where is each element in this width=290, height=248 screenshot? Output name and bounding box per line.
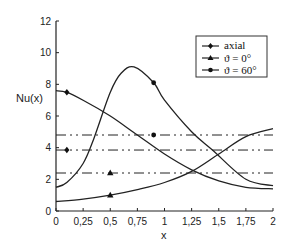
- x-tick-label: 0: [53, 216, 59, 227]
- nusselt-chart: 02468101200,250,50,7511,251,51,752 Nu(x)…: [0, 0, 290, 248]
- x-tick-label: 0,5: [103, 216, 117, 227]
- y-tick-label: 0: [45, 206, 51, 217]
- legend: axial ϑ = 0° ϑ = 60°: [196, 36, 267, 77]
- x-tick-label: 0,75: [128, 216, 148, 227]
- x-tick-label: 1: [162, 216, 168, 227]
- x-tick-label: 2: [270, 216, 276, 227]
- circle-marker-icon: [151, 133, 156, 138]
- y-axis-label: Nu(x): [16, 92, 43, 104]
- diamond-marker-icon: [64, 89, 69, 95]
- diamond-marker-icon: [64, 147, 69, 153]
- y-tick-label: 4: [45, 142, 51, 153]
- legend-label: axial: [224, 39, 245, 51]
- circle-marker-icon: [208, 68, 213, 73]
- y-tick-label: 12: [40, 16, 52, 27]
- y-tick-label: 8: [45, 79, 51, 90]
- x-tick-label: 1,5: [212, 216, 226, 227]
- legend-label: ϑ = 60°: [224, 64, 257, 76]
- series-curve: [56, 129, 273, 202]
- curves: [56, 67, 273, 202]
- y-tick-label: 2: [45, 174, 51, 185]
- y-tick-label: 6: [45, 111, 51, 122]
- x-tick-label: 1,25: [182, 216, 202, 227]
- legend-label: ϑ = 0°: [224, 52, 251, 64]
- triangle-marker-icon: [107, 170, 113, 176]
- x-tick-label: 0,25: [73, 216, 93, 227]
- circle-marker-icon: [151, 80, 156, 85]
- x-axis-label: x: [161, 229, 167, 241]
- series-curve: [56, 67, 273, 188]
- x-tick-label: 1,75: [236, 216, 256, 227]
- y-tick-label: 10: [40, 47, 52, 58]
